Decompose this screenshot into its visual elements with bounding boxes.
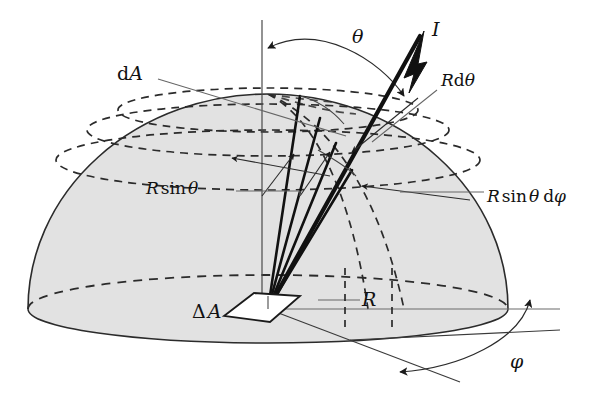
label-Rsindphi-phi: φ <box>554 186 566 206</box>
label-Rsindphi-d: d <box>539 186 554 206</box>
label-deltaA-A: A <box>206 300 222 322</box>
label-Rsindphi-theta: θ <box>527 186 539 206</box>
label-I: I <box>432 20 440 39</box>
figure-canvas: dA θ I Rdθ Rsinθ Rsinθdφ ΔA R φ <box>0 0 609 397</box>
label-R-sin-theta-dphi: Rsinθdφ <box>487 188 566 205</box>
label-delta-A: ΔA <box>192 302 221 321</box>
label-Rsin-sin: sin <box>159 178 186 198</box>
label-dA: dA <box>117 64 143 83</box>
label-dA-A: A <box>129 62 143 84</box>
label-R-sin-theta: Rsinθ <box>146 180 198 197</box>
label-phi: φ <box>510 352 523 371</box>
label-Rsindphi-R: R <box>487 186 500 206</box>
label-Rsindphi-sin: sin <box>500 186 527 206</box>
label-R-dtheta-d: d <box>454 70 465 90</box>
theta-arc <box>268 39 404 96</box>
label-R: R <box>362 290 376 309</box>
label-R-dtheta-R: R <box>441 70 454 90</box>
label-deltaA-delta: Δ <box>192 300 206 322</box>
label-R-dtheta-theta: θ <box>465 70 475 90</box>
label-dA-d: d <box>117 62 129 84</box>
label-Rsin-theta: θ <box>186 178 198 198</box>
label-Rsin-R: R <box>146 178 159 198</box>
label-R-dtheta: Rdθ <box>441 72 475 89</box>
label-theta: θ <box>352 27 363 46</box>
